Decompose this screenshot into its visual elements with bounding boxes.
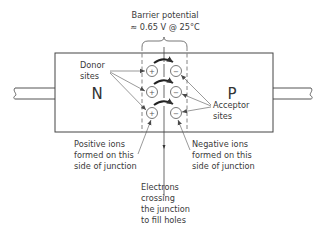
electrons-label-line4: to fill holes [141, 215, 186, 225]
svg-text:−: − [173, 89, 179, 97]
donor-label-line2: sites [80, 71, 99, 81]
svg-text:+: + [149, 89, 155, 97]
negative-ions-label-line1: Negative ions [192, 139, 248, 149]
svg-text:−: − [173, 110, 179, 118]
positive-ions-pointer [138, 120, 151, 154]
electron-flow-arrow-icon [154, 101, 173, 105]
negative-ions-label-line2: formed on this [192, 150, 252, 160]
electrons-label-line2: crossing [141, 193, 175, 203]
electron-arrow-down-icon [163, 145, 166, 149]
left-lead [14, 88, 55, 99]
right-lead [273, 88, 312, 99]
svg-text:+: + [149, 68, 155, 76]
svg-text:−: − [173, 68, 179, 76]
acceptor-label-line2: sites [213, 111, 232, 121]
negative-ions-label-line3: side of junction [192, 161, 255, 171]
barrier-brace [142, 37, 187, 47]
electron-flow-arrow-icon [154, 59, 173, 63]
donor-pointer-arrows [110, 71, 146, 110]
donor-label-line1: Donor [80, 60, 106, 70]
acceptor-label-line1: Acceptor [213, 100, 250, 110]
acceptor-pointer-arrows [181, 75, 211, 112]
electrons-label-line3: the junction [141, 204, 190, 214]
electron-flow-arrow-icon [154, 80, 173, 84]
barrier-label-line2: ≈ 0.65 V @ 25°C [130, 22, 200, 32]
pn-junction-diagram: + − + − + − Barrier potential ≈ 0.65 V @… [0, 0, 326, 234]
electrons-label-line1: Electrons [141, 182, 179, 192]
barrier-label-line1: Barrier potential [132, 10, 199, 20]
n-region-label: N [91, 85, 102, 103]
positive-ions-label-line2: formed on this [74, 150, 134, 160]
svg-text:+: + [149, 110, 155, 118]
negative-ions-pointer [178, 120, 190, 150]
positive-ions-label-line1: Positive ions [74, 139, 125, 149]
positive-ions-label-line3: side of junction [74, 161, 137, 171]
